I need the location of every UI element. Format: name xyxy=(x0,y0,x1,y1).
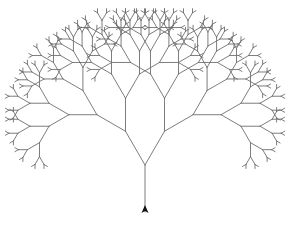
branch-segment xyxy=(18,119,30,126)
branch-segment xyxy=(32,72,44,79)
branch-segment xyxy=(260,96,272,103)
branch-segment xyxy=(160,28,172,35)
branch-segment xyxy=(267,84,270,86)
branch-segment xyxy=(23,150,28,158)
branch-segment xyxy=(258,86,263,94)
branch-segment xyxy=(15,148,18,150)
branch-segment xyxy=(156,13,161,21)
branch-segment xyxy=(181,31,186,39)
branch-segment xyxy=(97,115,126,131)
branch-segment xyxy=(239,53,242,55)
branch-segment xyxy=(160,13,165,21)
branch-segment xyxy=(190,39,193,41)
branch-segment xyxy=(13,88,17,96)
branch-segment xyxy=(102,13,107,21)
branch-segment xyxy=(272,133,277,141)
branch-segment xyxy=(15,80,18,82)
branch-segment xyxy=(61,44,73,51)
branch-segment xyxy=(180,11,183,13)
branch-segment xyxy=(184,13,189,21)
branch-segment xyxy=(193,90,207,114)
branch-segment xyxy=(272,111,277,119)
branch-segment xyxy=(272,150,275,152)
branch-segment xyxy=(130,13,135,21)
branch-segment xyxy=(109,34,112,36)
branch-segment xyxy=(177,18,180,20)
branch-segment xyxy=(83,90,97,114)
branch-segment xyxy=(10,141,13,143)
branch-segment xyxy=(65,31,70,39)
branch-segment xyxy=(82,18,85,20)
branch-segment xyxy=(255,164,258,166)
branch-segment xyxy=(243,164,246,166)
branch-segment xyxy=(131,62,151,74)
fractal-tree-drawing xyxy=(0,0,288,230)
branch-segment xyxy=(113,20,118,28)
branch-segment xyxy=(19,86,22,88)
branch-segment xyxy=(5,108,8,110)
branch-segment xyxy=(27,143,39,150)
branch-segment xyxy=(169,13,174,21)
branch-segment xyxy=(5,94,8,96)
branch-segment xyxy=(27,64,32,72)
branch-segment xyxy=(145,13,150,21)
branch-segment xyxy=(212,22,215,24)
branch-segment xyxy=(200,67,203,69)
branch-segment xyxy=(221,27,224,29)
branch-segment xyxy=(165,115,194,131)
branch-segment xyxy=(178,62,190,69)
branch-segment xyxy=(24,94,27,96)
branch-segment xyxy=(56,48,61,56)
branch-segment xyxy=(19,157,22,159)
branch-segment xyxy=(251,65,256,73)
branch-segment xyxy=(230,48,235,56)
branch-segment xyxy=(110,18,113,20)
branch-segment xyxy=(37,48,42,56)
branch-segment xyxy=(239,67,242,69)
branch-segment xyxy=(49,41,54,49)
branch-segment xyxy=(60,55,72,62)
branch-segment xyxy=(146,11,149,13)
branch-segment xyxy=(18,103,30,110)
branch-segment xyxy=(281,131,284,133)
branch-segment xyxy=(32,79,44,86)
branch-segment xyxy=(29,54,32,56)
branch-segment xyxy=(281,119,284,121)
branch-segment xyxy=(18,96,30,103)
branch-segment xyxy=(186,29,189,31)
branch-segment xyxy=(41,56,53,63)
branch-segment xyxy=(281,108,284,110)
branch-segment xyxy=(126,13,131,21)
branch-segment xyxy=(205,18,208,20)
branch-segment xyxy=(13,133,17,141)
branch-segment xyxy=(142,26,145,28)
branch-segment xyxy=(220,31,225,39)
branch-segment xyxy=(151,74,165,98)
branch-segment xyxy=(272,110,277,118)
branch-segment xyxy=(267,70,270,72)
branch-segment xyxy=(87,67,90,69)
branch-segment xyxy=(44,63,47,65)
branch-segment xyxy=(107,11,110,13)
branch-segment xyxy=(5,119,8,121)
branch-segment xyxy=(190,37,193,39)
branch-segment xyxy=(243,63,246,65)
branch-segment xyxy=(23,72,28,80)
branch-segment xyxy=(165,74,179,98)
branch-segment xyxy=(263,150,268,158)
branch-segment xyxy=(272,80,275,82)
branch-segment xyxy=(207,51,217,67)
branch-segment xyxy=(272,148,275,150)
branch-segment xyxy=(35,157,40,165)
branch-segment xyxy=(105,28,108,30)
branch-segment xyxy=(49,115,69,127)
branch-segment xyxy=(96,37,99,39)
branch-segment xyxy=(188,28,200,35)
branch-segment xyxy=(10,86,13,88)
branch-segment xyxy=(48,53,51,55)
branch-segment xyxy=(141,11,144,13)
branch-segment xyxy=(32,164,35,166)
branch-segment xyxy=(281,117,284,119)
branch-segment xyxy=(87,69,90,71)
branch-segment xyxy=(94,11,97,13)
